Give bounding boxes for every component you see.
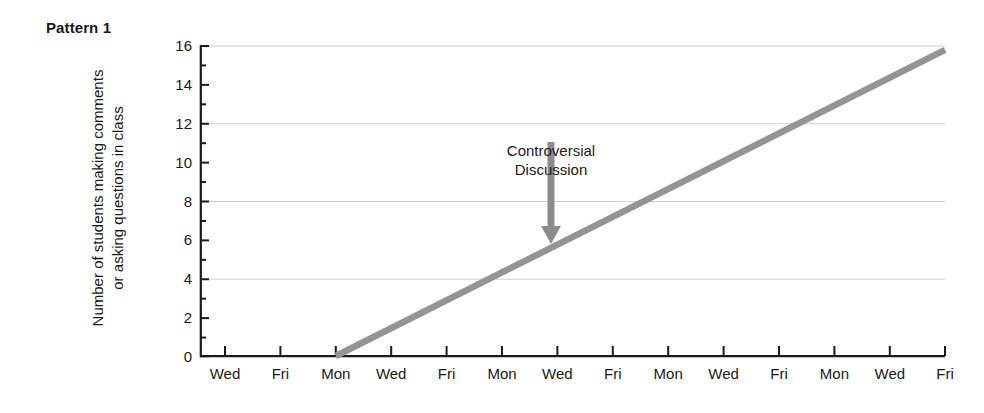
plot-area bbox=[200, 46, 945, 357]
y-axis-title-line-1: Number of students making comments bbox=[88, 33, 108, 363]
chart-plot-svg bbox=[200, 46, 945, 357]
y-tick-label: 4 bbox=[152, 271, 192, 286]
chart-annotation: Controversial Discussion bbox=[451, 141, 651, 179]
y-tick-label: 2 bbox=[152, 310, 192, 325]
data-series-line bbox=[336, 50, 945, 356]
y-tick-label: 16 bbox=[152, 38, 192, 53]
y-axis-title-line-2: or asking questions in class bbox=[108, 33, 128, 363]
annotation-line-2: Discussion bbox=[451, 160, 651, 179]
y-tick-label: 14 bbox=[152, 77, 192, 92]
y-tick-label: 0 bbox=[152, 349, 192, 364]
y-axis-title: Number of students making comments or as… bbox=[88, 33, 128, 363]
chart-figure: Pattern 1 Number of students making comm… bbox=[0, 0, 984, 413]
x-ticks bbox=[225, 346, 945, 356]
x-tick-label: Fri bbox=[910, 364, 980, 384]
y-tick-label: 6 bbox=[152, 232, 192, 247]
annotation-line-1: Controversial bbox=[451, 141, 651, 160]
y-axis-tick-labels: 0 2 4 6 8 10 12 14 16 bbox=[148, 46, 192, 357]
y-tick-label: 10 bbox=[152, 155, 192, 170]
x-axis-tick-labels: Wed Fri Mon Wed Fri Mon Wed Fri Mon Wed … bbox=[200, 364, 945, 390]
y-tick-label: 8 bbox=[152, 194, 192, 209]
y-tick-label: 12 bbox=[152, 116, 192, 131]
